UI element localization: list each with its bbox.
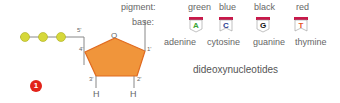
phosphate-chain-icon	[20, 33, 84, 66]
base-label: base:	[132, 17, 154, 27]
carbon-4-label: 4'	[79, 46, 83, 52]
tag-letter-a: A	[189, 21, 203, 30]
hydrogen-2-label: H	[130, 89, 137, 99]
tag-letter-t: T	[294, 21, 308, 30]
pigment-label: pigment:	[121, 2, 156, 12]
carbon-2-label: 2'	[137, 76, 141, 82]
diagram-graphics	[0, 0, 340, 103]
ring-oxygen-label: O	[111, 31, 117, 40]
pigment-blue: blue	[219, 2, 236, 12]
tag-letter-g: G	[256, 21, 270, 30]
carbon-1-label: 1'	[147, 46, 151, 52]
base-adenine: adenine	[164, 37, 196, 47]
diagram-title: dideoxynucleotides	[193, 64, 278, 75]
base-tags	[189, 17, 308, 32]
step-badge: 1	[30, 80, 42, 92]
base-guanine: guanine	[253, 37, 285, 47]
diagram-root: pigment: base: green blue black red A C …	[0, 0, 340, 103]
base-cytosine: cytosine	[207, 37, 240, 47]
hydrogen-3-label: H	[93, 89, 100, 99]
pigment-green: green	[188, 2, 211, 12]
carbon-5-label: 5'	[77, 27, 81, 33]
pigment-red: red	[296, 2, 309, 12]
base-thymine: thymine	[295, 37, 327, 47]
tag-letter-c: C	[219, 21, 233, 30]
carbon-3-label: 3'	[89, 76, 93, 82]
pigment-black: black	[254, 2, 275, 12]
